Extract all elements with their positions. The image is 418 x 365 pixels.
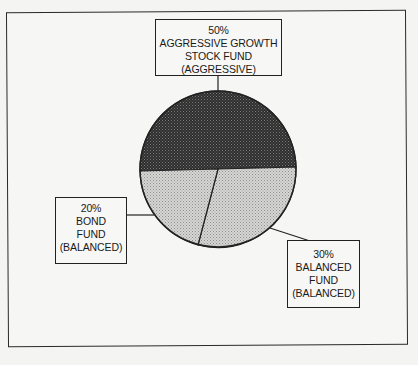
label-percent: 50%	[156, 24, 281, 37]
label-line: AGGRESSIVE GROWTH	[156, 37, 281, 50]
slice-aggressive-growth	[140, 91, 296, 171]
label-line: FUND	[288, 274, 359, 287]
label-balanced-fund: 30% BALANCED FUND (BALANCED)	[287, 240, 360, 308]
label-line: (BALANCED)	[56, 241, 126, 254]
label-line: (BALANCED)	[288, 287, 359, 300]
label-line: BALANCED	[288, 261, 359, 274]
label-line: STOCK FUND	[156, 50, 281, 63]
label-percent: 20%	[56, 202, 126, 215]
label-line: BOND	[56, 215, 126, 228]
label-bond-fund: 20% BOND FUND (BALANCED)	[55, 197, 127, 264]
label-line: (AGGRESSIVE)	[156, 63, 281, 76]
label-line: FUND	[56, 228, 126, 241]
label-aggressive-growth: 50% AGGRESSIVE GROWTH STOCK FUND (AGGRES…	[155, 19, 282, 76]
label-percent: 30%	[288, 248, 359, 261]
